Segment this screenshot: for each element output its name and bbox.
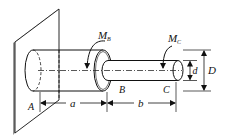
- shaft-diagram: M B M C a b D d A B C: [0, 0, 225, 139]
- moment-b-subscript: B: [107, 36, 111, 42]
- fixed-wall: [13, 9, 59, 135]
- point-a-label: A: [27, 101, 35, 112]
- point-b-label: B: [119, 84, 125, 95]
- length-a-label: a: [70, 97, 76, 109]
- moment-c-subscript: C: [177, 39, 182, 45]
- dimension-large-diameter: D: [204, 51, 216, 90]
- diameter-small-label: d: [193, 65, 199, 76]
- diameter-large-label: D: [207, 64, 216, 76]
- point-c-label: C: [163, 84, 170, 95]
- dimension-small-diameter: d: [190, 62, 199, 80]
- length-b-label: b: [138, 97, 144, 109]
- dimension-b: b: [108, 97, 175, 109]
